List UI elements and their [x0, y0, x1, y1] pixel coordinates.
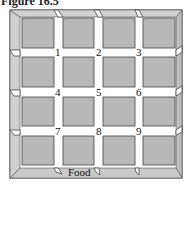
- intersection-label-3: 3: [136, 47, 142, 58]
- intersection-label-1: 1: [55, 47, 61, 58]
- intersection-label-6: 6: [136, 87, 142, 98]
- intersection-label-5: 5: [96, 87, 102, 98]
- food-goal-label: Food: [68, 167, 91, 178]
- intersection-label-4: 4: [55, 87, 61, 98]
- intersection-label-2: 2: [96, 47, 102, 58]
- intersection-label-9: 9: [136, 126, 142, 137]
- intersection-label-7: 7: [55, 126, 61, 137]
- intersection-label-8: 8: [96, 126, 102, 137]
